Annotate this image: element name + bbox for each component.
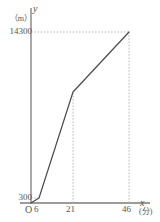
x-tick-label-46: 46 (122, 205, 131, 214)
chart-figure: （m） 14300 300 y O 6 21 46 x (分) (0, 0, 160, 222)
y-tick-label-300: 300 (19, 193, 33, 202)
x-axis-unit-label: (分) (139, 208, 152, 216)
x-tick-label-6: 6 (34, 205, 39, 214)
y-axis-unit-label: （m） (10, 15, 32, 23)
y-tick-label-14300: 14300 (10, 27, 33, 36)
y-axis-name-label: y (33, 4, 37, 14)
data-series-distance (31, 32, 129, 203)
origin-label: O (25, 205, 32, 215)
x-tick-label-21: 21 (66, 205, 75, 214)
